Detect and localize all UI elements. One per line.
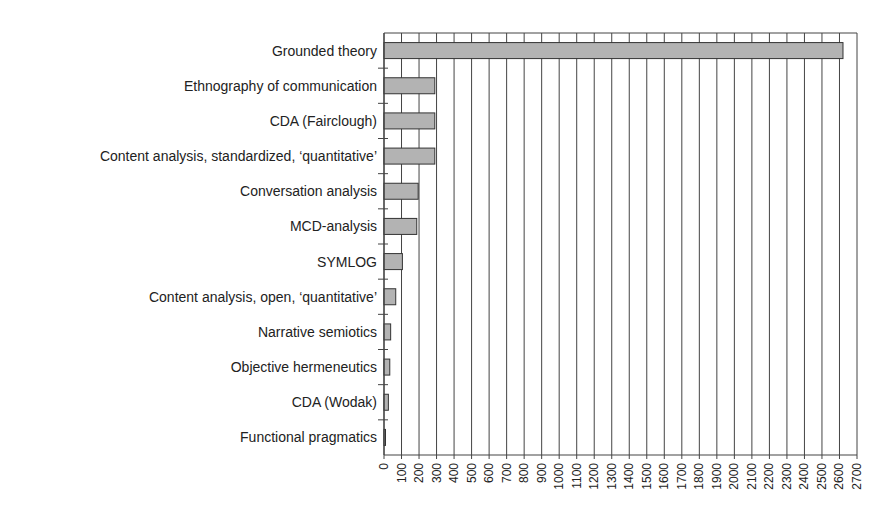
category-label: Functional pragmatics <box>240 429 377 445</box>
bars <box>384 43 843 446</box>
x-tick-label: 2100 <box>745 463 759 490</box>
x-tick-label: 200 <box>412 463 426 483</box>
bar <box>384 113 435 129</box>
gridlines <box>384 33 857 459</box>
category-label: Ethnography of communication <box>184 78 377 94</box>
x-tick-label: 500 <box>465 463 479 483</box>
x-tick-label: 900 <box>535 463 549 483</box>
category-label: CDA (Fairclough) <box>270 113 377 129</box>
x-tick-label: 1900 <box>710 463 724 490</box>
bar <box>384 43 843 59</box>
bar-chart: Grounded theoryEthnography of communicat… <box>0 0 892 523</box>
category-label: Content analysis, standardized, ‘quantit… <box>100 148 377 164</box>
x-tick-label: 2400 <box>797 463 811 490</box>
x-tick-label: 1200 <box>587 463 601 490</box>
bar <box>384 148 435 164</box>
bar <box>384 289 396 305</box>
bar <box>384 183 418 199</box>
x-tick-label: 700 <box>500 463 514 483</box>
x-tick-label: 2000 <box>727 463 741 490</box>
x-tick-label: 2600 <box>832 463 846 490</box>
x-tick-label: 100 <box>395 463 409 483</box>
category-label: CDA (Wodak) <box>292 394 377 410</box>
x-tick-label: 1000 <box>552 463 566 490</box>
category-label: Objective hermeneutics <box>231 359 377 375</box>
x-tick-label: 1500 <box>640 463 654 490</box>
category-label: MCD-analysis <box>290 218 377 234</box>
tick-labels: 0100200300400500600700800900100011001200… <box>377 463 864 490</box>
x-tick-label: 1400 <box>622 463 636 490</box>
x-tick-label: 1300 <box>605 463 619 490</box>
bar <box>384 254 402 270</box>
x-tick-label: 0 <box>377 463 391 470</box>
category-labels: Grounded theoryEthnography of communicat… <box>100 43 377 446</box>
bar <box>384 324 391 340</box>
x-tick-label: 800 <box>517 463 531 483</box>
x-tick-label: 2700 <box>850 463 864 490</box>
x-tick-label: 2500 <box>815 463 829 490</box>
category-label: Grounded theory <box>272 43 377 59</box>
x-tick-label: 1100 <box>570 463 584 489</box>
x-tick-label: 1600 <box>657 463 671 490</box>
bar <box>384 359 390 375</box>
category-label: SYMLOG <box>317 254 377 270</box>
category-label: Narrative semiotics <box>258 324 377 340</box>
bar <box>384 78 435 94</box>
x-tick-label: 1800 <box>692 463 706 490</box>
x-tick-label: 1700 <box>675 463 689 490</box>
category-label: Conversation analysis <box>240 183 377 199</box>
x-tick-label: 600 <box>482 463 496 483</box>
bar <box>384 394 388 410</box>
bar <box>384 218 417 234</box>
x-tick-label: 2300 <box>780 463 794 490</box>
x-tick-label: 300 <box>430 463 444 483</box>
x-tick-label: 400 <box>447 463 461 483</box>
x-tick-label: 2200 <box>762 463 776 490</box>
axes <box>378 33 857 455</box>
category-label: Content analysis, open, ‘quantitative’ <box>149 289 377 305</box>
